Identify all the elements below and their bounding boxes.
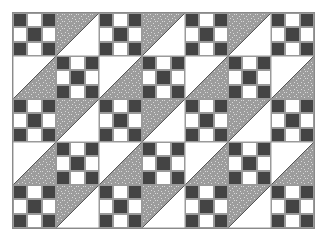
dark-square bbox=[271, 99, 285, 113]
dark-square bbox=[85, 56, 99, 70]
light-square bbox=[214, 27, 228, 41]
nine-patch-block bbox=[271, 99, 314, 142]
nine-patch-block bbox=[228, 142, 271, 185]
dark-square bbox=[271, 42, 285, 56]
dark-square bbox=[185, 42, 199, 56]
light-square bbox=[85, 156, 99, 170]
light-square bbox=[199, 128, 213, 142]
half-square-triangle-block bbox=[56, 13, 99, 56]
dark-square bbox=[99, 42, 113, 56]
dark-square bbox=[128, 99, 142, 113]
half-square-triangle-block bbox=[228, 99, 271, 142]
nine-patch-block bbox=[142, 56, 185, 99]
dark-square bbox=[185, 13, 199, 27]
light-square bbox=[27, 99, 41, 113]
dark-square bbox=[300, 42, 314, 56]
half-square-triangle-block bbox=[56, 99, 99, 142]
light-square bbox=[285, 13, 299, 27]
dark-square bbox=[42, 42, 56, 56]
dark-square bbox=[113, 27, 127, 41]
dark-square bbox=[214, 13, 228, 27]
light-square bbox=[242, 56, 256, 70]
light-square bbox=[42, 199, 56, 213]
dark-square bbox=[113, 199, 127, 213]
dark-square bbox=[214, 185, 228, 199]
dark-square bbox=[156, 156, 170, 170]
light-square bbox=[285, 42, 299, 56]
dark-square bbox=[300, 99, 314, 113]
half-square-triangle-block bbox=[185, 142, 228, 185]
dark-square bbox=[142, 85, 156, 99]
light-square bbox=[42, 27, 56, 41]
dark-square bbox=[85, 171, 99, 185]
dark-square bbox=[27, 199, 41, 213]
light-square bbox=[56, 156, 70, 170]
dark-square bbox=[85, 142, 99, 156]
light-square bbox=[214, 199, 228, 213]
dark-square bbox=[56, 56, 70, 70]
dark-square bbox=[128, 214, 142, 228]
nine-patch-block bbox=[185, 99, 228, 142]
light-square bbox=[156, 142, 170, 156]
light-square bbox=[285, 99, 299, 113]
dark-square bbox=[42, 13, 56, 27]
dark-square bbox=[13, 13, 27, 27]
light-square bbox=[128, 199, 142, 213]
light-square bbox=[228, 156, 242, 170]
dark-square bbox=[214, 42, 228, 56]
dark-square bbox=[185, 214, 199, 228]
light-square bbox=[185, 199, 199, 213]
light-square bbox=[271, 27, 285, 41]
dark-square bbox=[228, 56, 242, 70]
dark-square bbox=[300, 214, 314, 228]
light-square bbox=[257, 70, 271, 84]
nine-patch-block bbox=[99, 13, 142, 56]
light-square bbox=[271, 199, 285, 213]
dark-square bbox=[228, 85, 242, 99]
light-square bbox=[27, 128, 41, 142]
dark-square bbox=[99, 99, 113, 113]
nine-patch-block bbox=[13, 99, 56, 142]
dark-square bbox=[171, 171, 185, 185]
dark-square bbox=[13, 128, 27, 142]
dark-square bbox=[99, 13, 113, 27]
light-square bbox=[128, 27, 142, 41]
light-square bbox=[300, 199, 314, 213]
nine-patch-block bbox=[56, 56, 99, 99]
dark-square bbox=[128, 128, 142, 142]
light-square bbox=[113, 99, 127, 113]
nine-patch-block bbox=[185, 13, 228, 56]
dark-square bbox=[271, 128, 285, 142]
dark-square bbox=[271, 214, 285, 228]
dark-square bbox=[27, 27, 41, 41]
dark-square bbox=[171, 56, 185, 70]
light-square bbox=[214, 113, 228, 127]
light-square bbox=[156, 85, 170, 99]
half-square-triangle-block bbox=[271, 56, 314, 99]
light-square bbox=[113, 185, 127, 199]
light-square bbox=[70, 85, 84, 99]
dark-square bbox=[42, 99, 56, 113]
half-square-triangle-block bbox=[228, 185, 271, 228]
light-square bbox=[99, 27, 113, 41]
light-square bbox=[99, 199, 113, 213]
light-square bbox=[285, 185, 299, 199]
dark-square bbox=[27, 113, 41, 127]
half-square-triangle-block bbox=[228, 13, 271, 56]
dark-square bbox=[171, 142, 185, 156]
dark-square bbox=[171, 85, 185, 99]
light-square bbox=[27, 214, 41, 228]
half-square-triangle-block bbox=[99, 142, 142, 185]
light-square bbox=[70, 56, 84, 70]
dark-square bbox=[242, 70, 256, 84]
half-square-triangle-block bbox=[271, 142, 314, 185]
light-square bbox=[42, 113, 56, 127]
dark-square bbox=[142, 56, 156, 70]
light-square bbox=[113, 128, 127, 142]
light-square bbox=[285, 128, 299, 142]
light-square bbox=[199, 214, 213, 228]
dark-square bbox=[128, 42, 142, 56]
dark-square bbox=[85, 85, 99, 99]
light-square bbox=[228, 70, 242, 84]
light-square bbox=[171, 70, 185, 84]
